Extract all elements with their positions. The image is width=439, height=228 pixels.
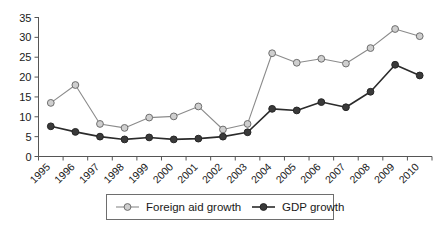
data-point-gdp-growth	[367, 88, 374, 95]
data-point-gdp-growth	[392, 61, 399, 68]
data-point-gdp-growth	[47, 123, 54, 130]
data-point-foreign-aid-growth	[367, 45, 374, 52]
data-point-foreign-aid-growth	[318, 55, 325, 62]
data-point-gdp-growth	[121, 136, 128, 143]
data-point-foreign-aid-growth	[220, 126, 227, 133]
y-tick-label: 35	[19, 12, 31, 24]
x-tick-label: 2001	[175, 160, 200, 185]
y-tick-label: 25	[19, 51, 31, 63]
data-point-gdp-growth	[343, 104, 350, 111]
data-point-gdp-growth	[220, 133, 227, 140]
line-chart: 05101520253035 1995199619971998199920002…	[0, 0, 439, 228]
data-point-foreign-aid-growth	[146, 114, 153, 121]
x-tick-label: 1996	[52, 160, 77, 185]
series-line-foreign-aid-growth	[51, 29, 420, 129]
x-tick-label: 2009	[372, 160, 397, 185]
data-point-gdp-growth	[97, 133, 104, 140]
data-point-gdp-growth	[416, 72, 423, 79]
data-point-gdp-growth	[318, 99, 325, 106]
x-tick-label: 2002	[199, 160, 224, 185]
x-tick-label: 2005	[273, 160, 298, 185]
data-point-foreign-aid-growth	[343, 60, 350, 67]
data-point-foreign-aid-growth	[170, 113, 177, 120]
data-point-foreign-aid-growth	[392, 26, 399, 33]
data-point-foreign-aid-growth	[121, 125, 128, 132]
data-point-foreign-aid-growth	[72, 82, 79, 89]
x-tick-label: 1999	[126, 160, 151, 185]
data-point-gdp-growth	[72, 128, 79, 135]
y-tick-label: 15	[19, 91, 31, 103]
data-point-gdp-growth	[146, 134, 153, 141]
data-point-foreign-aid-growth	[195, 103, 202, 110]
data-point-gdp-growth	[170, 136, 177, 143]
data-point-foreign-aid-growth	[416, 33, 423, 40]
y-tick-label: 20	[19, 71, 31, 83]
legend-marker-gdp-growth	[260, 204, 267, 211]
y-axis-tick-labels: 05101520253035	[19, 12, 31, 163]
series-markers-gdp-growth	[47, 61, 423, 142]
data-point-foreign-aid-growth	[269, 50, 276, 57]
x-axis-tick-marks	[39, 157, 433, 161]
chart-svg: 05101520253035 1995199619971998199920002…	[0, 0, 439, 228]
y-tick-label: 0	[25, 151, 31, 163]
x-tick-label: 2010	[396, 160, 421, 185]
x-tick-label: 2003	[224, 160, 249, 185]
data-point-foreign-aid-growth	[244, 121, 251, 128]
data-point-gdp-growth	[195, 135, 202, 142]
x-tick-label: 2004	[249, 160, 274, 185]
data-point-gdp-growth	[244, 129, 251, 136]
x-tick-label: 2000	[150, 160, 175, 185]
y-tick-label: 5	[25, 131, 31, 143]
data-point-gdp-growth	[269, 105, 276, 112]
data-point-foreign-aid-growth	[293, 59, 300, 66]
x-tick-label: 2006	[298, 160, 323, 185]
x-tick-label: 1997	[76, 160, 101, 185]
y-tick-label: 10	[19, 111, 31, 123]
y-tick-label: 30	[19, 31, 31, 43]
series-line-gdp-growth	[51, 65, 420, 140]
y-axis-tick-marks	[35, 18, 39, 157]
legend-label-gdp-growth: GDP growth	[282, 201, 344, 213]
x-axis-tick-labels: 1995199619971998199920002001200220032004…	[27, 160, 421, 185]
legend-marker-foreign-aid-growth	[124, 204, 131, 211]
x-tick-label: 2008	[347, 160, 372, 185]
legend: Foreign aid growth GDP growth	[107, 195, 345, 220]
legend-label-foreign-aid-growth: Foreign aid growth	[146, 201, 241, 213]
data-point-foreign-aid-growth	[97, 121, 104, 128]
x-tick-label: 1998	[101, 160, 126, 185]
series-markers-foreign-aid-growth	[47, 26, 423, 133]
x-tick-label: 1995	[27, 160, 52, 185]
x-tick-label: 2007	[322, 160, 347, 185]
data-point-gdp-growth	[293, 107, 300, 114]
data-point-foreign-aid-growth	[47, 99, 54, 106]
